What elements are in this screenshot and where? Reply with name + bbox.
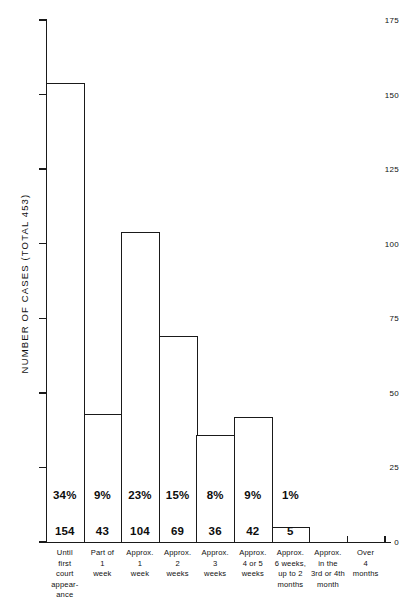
y-axis-tick-label: 150 (363, 90, 399, 99)
y-axis-tick-label: 75 (363, 314, 399, 323)
y-axis-tick-label: 25 (363, 463, 399, 472)
x-axis-line (46, 542, 391, 543)
bar (84, 414, 123, 542)
y-axis-title: NUMBER OF CASES (TOTAL 453) (19, 174, 30, 394)
x-axis-category-label: Approx.6 weeks,up to 2months (270, 548, 312, 590)
x-axis-label-line: weeks (166, 569, 188, 578)
x-axis-tick (347, 536, 348, 543)
x-axis-label-line: up to 2 (278, 569, 302, 578)
bar (159, 336, 198, 542)
x-axis-category-label: Approx.in the3rd or 4thmonth (307, 548, 349, 590)
x-axis-category-label: Approx.2weeks (157, 548, 199, 580)
y-axis-tick (39, 19, 47, 20)
bar-value-label: 36 (196, 525, 234, 537)
x-axis-label-line: 3 (213, 559, 217, 568)
bar-percent-label: 23% (121, 489, 159, 501)
bar-percent-label: 9% (234, 489, 272, 501)
x-axis-label-line: 4 (363, 559, 367, 568)
bar (234, 417, 273, 542)
x-axis-category-label: Approx.4 or 5weeks (232, 548, 274, 580)
bar-percent-label: 34% (46, 489, 84, 501)
bar-percent-label: 1% (272, 489, 310, 501)
bar-chart: NUMBER OF CASES (TOTAL 453) 025507510012… (0, 0, 399, 610)
x-axis-label-line: 1 (100, 559, 104, 568)
y-axis-tick-label: 125 (363, 165, 399, 174)
x-axis-label-line: Approx. (202, 548, 229, 557)
x-axis-label-line: weeks (242, 569, 264, 578)
x-axis-label-line: Approx. (239, 548, 266, 557)
x-axis-category-label: Approx.3weeks (194, 548, 236, 580)
x-axis-category-label: Approx.1week (119, 548, 161, 580)
x-axis-label-line: first (58, 559, 71, 568)
bar-value-label: 154 (46, 525, 84, 537)
x-axis-label-line: Approx. (277, 548, 304, 557)
x-axis-category-label: Part of1week (82, 548, 124, 580)
x-axis-label-line: weeks (204, 569, 226, 578)
x-axis-label-line: week (131, 569, 149, 578)
bar-value-label: 43 (84, 525, 122, 537)
bar-value-label: 104 (121, 525, 159, 537)
x-axis-label-line: 1 (138, 559, 142, 568)
bar-value-label: 69 (159, 525, 197, 537)
x-axis-label-line: months (353, 569, 379, 578)
x-axis-label-line: month (317, 580, 339, 589)
x-axis-tick (384, 536, 385, 543)
x-axis-label-line: Approx. (164, 548, 191, 557)
y-axis-tick-label: 50 (363, 388, 399, 397)
x-axis-label-line: week (93, 569, 111, 578)
x-axis-label-line: 6 weeks, (275, 559, 306, 568)
x-axis-category-label: Untilfirstcourtappear-ance (44, 548, 86, 601)
bar-percent-label: 15% (159, 489, 197, 501)
x-axis-label-line: Until (57, 548, 73, 557)
x-axis-label-line: 2 (175, 559, 179, 568)
x-axis-label-line: Part of (91, 548, 114, 557)
bar-value-label: 42 (234, 525, 272, 537)
x-axis-label-line: court (56, 569, 74, 578)
x-axis-category-label: Over4months (345, 548, 387, 580)
bar-percent-label: 9% (84, 489, 122, 501)
bar-value-label: 5 (272, 525, 310, 537)
x-axis-label-line: 4 or 5 (243, 559, 263, 568)
x-axis-label-line: Approx. (314, 548, 341, 557)
x-axis-label-line: appear- (51, 580, 78, 589)
bar (46, 83, 85, 542)
x-axis-label-line: 3rd or 4th (311, 569, 345, 578)
y-axis-tick-label: 100 (363, 239, 399, 248)
x-axis-label-line: Over (357, 548, 374, 557)
x-axis-label-line: months (277, 580, 303, 589)
y-axis-tick-label: 175 (363, 16, 399, 25)
x-axis-label-line: ance (56, 590, 73, 599)
bar-percent-label: 8% (196, 489, 234, 501)
x-axis-label-line: in the (318, 559, 337, 568)
x-axis-label-line: Approx. (126, 548, 153, 557)
